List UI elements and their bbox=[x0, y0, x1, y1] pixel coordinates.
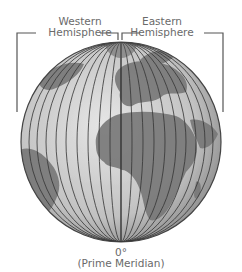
western-hemisphere-label: Western Hemisphere bbox=[44, 16, 116, 38]
prime-meridian-label: 0° (Prime Meridian) bbox=[60, 247, 182, 269]
meridian-name: (Prime Meridian) bbox=[60, 258, 182, 269]
western-label-line2: Hemisphere bbox=[44, 27, 116, 38]
globe bbox=[20, 26, 221, 242]
eastern-hemisphere-label: Eastern Hemisphere bbox=[126, 16, 198, 38]
eastern-label-line2: Hemisphere bbox=[126, 27, 198, 38]
globe-diagram bbox=[0, 0, 242, 272]
